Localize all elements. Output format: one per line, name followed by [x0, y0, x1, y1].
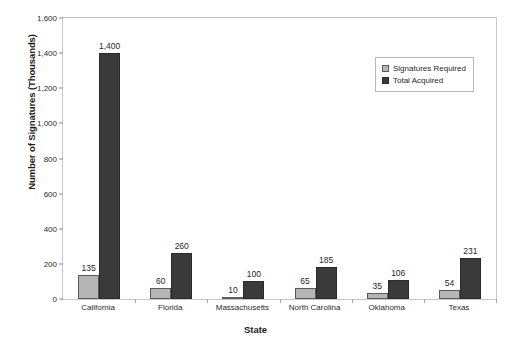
x-axis-tick-mark: [424, 299, 425, 303]
bar-group: 1351,400: [63, 18, 135, 299]
y-axis-tick-label: 1,600: [37, 14, 57, 23]
x-axis-tick-mark: [280, 299, 281, 303]
bar-value-label: 54: [445, 278, 454, 288]
bar-value-label: 185: [319, 255, 333, 265]
legend-swatch-icon-required: [382, 65, 389, 72]
legend-label-acquired: Total Acquired: [393, 76, 443, 85]
x-axis-tick-label: Oklahoma: [369, 303, 405, 312]
x-axis-tick-mark: [352, 299, 353, 303]
bar-value-label: 1,400: [99, 41, 120, 51]
bar-value-label: 65: [300, 276, 309, 286]
legend-swatch-icon-acquired: [382, 77, 389, 84]
bar-acquired[interactable]: [460, 258, 481, 299]
y-axis-tick-label: 800: [44, 154, 57, 163]
bar-required[interactable]: [150, 288, 171, 299]
bar-group: 65185: [280, 18, 352, 299]
bar-value-label: 106: [391, 268, 405, 278]
bar-value-label: 10: [228, 285, 237, 295]
bar-acquired[interactable]: [171, 253, 192, 299]
x-axis-tick-label: Massachusetts: [216, 303, 269, 312]
bar-group: 60260: [135, 18, 207, 299]
legend-item-total-acquired: Total Acquired: [382, 75, 466, 86]
bar-value-label: 135: [81, 263, 95, 273]
x-axis-tick-label: California: [81, 303, 115, 312]
bar-value-label: 35: [373, 281, 382, 291]
y-axis-tick-label: 0: [53, 295, 57, 304]
x-axis-tick-label: Florida: [158, 303, 182, 312]
x-axis-tick-mark: [135, 299, 136, 303]
bar-acquired[interactable]: [99, 53, 120, 299]
bar-group: 10100: [207, 18, 279, 299]
bar-acquired[interactable]: [316, 267, 337, 299]
y-axis-tick-label: 400: [44, 224, 57, 233]
bar-required[interactable]: [439, 290, 460, 299]
bar-required[interactable]: [367, 293, 388, 299]
bar-required[interactable]: [295, 288, 316, 299]
bar-chart-figure: Number of Signatures (Thousands) 0200400…: [0, 0, 511, 352]
y-axis-tick-label: 600: [44, 189, 57, 198]
legend-label-required: Signatures Required: [393, 64, 466, 73]
bar-value-label: 60: [156, 276, 165, 286]
x-axis-title: State: [0, 324, 511, 335]
y-axis-title: Number of Signatures (Thousands): [24, 17, 40, 207]
bar-value-label: 260: [175, 241, 189, 251]
chart-legend: Signatures Required Total Acquired: [375, 57, 474, 92]
x-axis-tick-mark: [496, 299, 497, 303]
bar-value-label: 100: [247, 269, 261, 279]
y-axis-tick-label: 1,400: [37, 49, 57, 58]
bar-acquired[interactable]: [388, 280, 409, 299]
y-axis-tick-label: 200: [44, 259, 57, 268]
legend-item-signatures-required: Signatures Required: [382, 63, 466, 74]
x-axis-tick-label: Texas: [448, 303, 469, 312]
y-axis-tick-label: 1,200: [37, 84, 57, 93]
x-axis-tick-label: North Carolina: [289, 303, 341, 312]
x-axis-tick-mark: [207, 299, 208, 303]
y-axis-tick-label: 1,000: [37, 119, 57, 128]
bar-required[interactable]: [78, 275, 99, 299]
bar-required[interactable]: [222, 297, 243, 299]
bar-acquired[interactable]: [243, 281, 264, 299]
bar-value-label: 231: [463, 246, 477, 256]
